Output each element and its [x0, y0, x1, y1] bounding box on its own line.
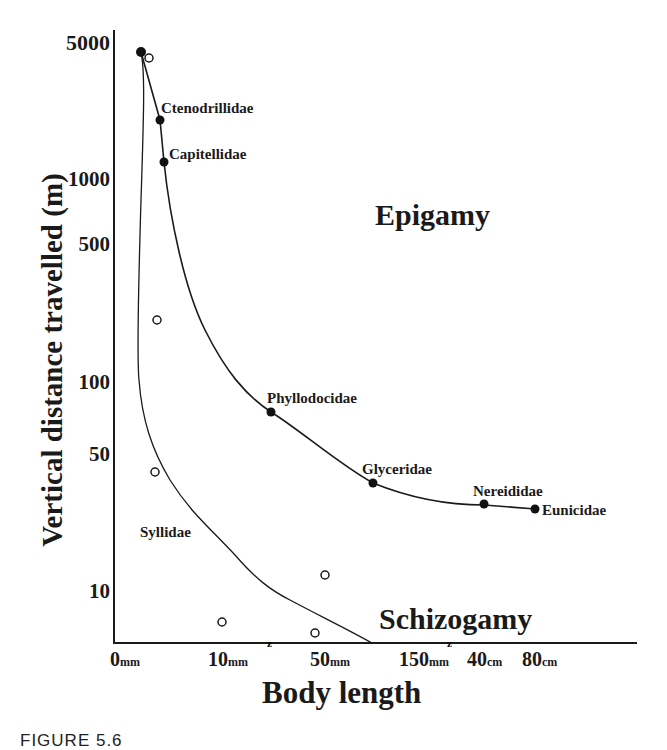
- figure-caption: FIGURE 5.6: [20, 731, 123, 750]
- open-point: [151, 468, 159, 476]
- x-tick-unit: mm: [330, 655, 350, 669]
- schizogamy-points: [145, 54, 329, 637]
- x-tick-unit: mm: [120, 655, 140, 669]
- data-point-nereididae: [480, 500, 489, 509]
- x-tick-150mm: 150mm: [399, 648, 449, 671]
- x-tick-10mm: 10mm: [208, 648, 248, 671]
- x-tick-value: 50: [310, 648, 330, 670]
- open-point: [145, 54, 153, 62]
- x-tick-50mm: 50mm: [310, 648, 350, 671]
- x-tick-value: 0: [110, 648, 120, 670]
- x-tick-value: 150: [399, 648, 429, 670]
- x-axis-title: Body length: [262, 675, 421, 711]
- label-syllidae: Syllidae: [140, 524, 191, 541]
- x-tick-unit: cm: [542, 655, 557, 669]
- y-tick-5000: 5000: [30, 30, 110, 56]
- data-point-eunicidae: [531, 505, 540, 514]
- x-tick-value: 80: [522, 648, 542, 670]
- label-nereididae: Nereididae: [473, 483, 543, 500]
- epigamy-curve: [141, 52, 535, 509]
- open-point: [218, 618, 226, 626]
- axis-break-mark: z: [267, 637, 272, 649]
- x-tick-80cm: 80cm: [522, 648, 557, 671]
- label-ctenodrillidae: Ctenodrillidae: [161, 100, 254, 117]
- syllidae-curve: [138, 52, 372, 643]
- y-axis-title: Vertical distance travelled (m): [36, 173, 69, 546]
- x-tick-unit: mm: [228, 655, 248, 669]
- x-tick-0mm: 0mm: [110, 648, 140, 671]
- data-point-glyceridae: [369, 479, 378, 488]
- label-eunicidae: Eunicidae: [542, 502, 606, 519]
- x-tick-unit: mm: [429, 655, 449, 669]
- data-point-top: [136, 47, 146, 57]
- open-point: [311, 629, 319, 637]
- x-tick-value: 40: [467, 648, 487, 670]
- x-tick-value: 10: [208, 648, 228, 670]
- data-point-phyllodocidae: [267, 408, 276, 417]
- x-tick-40cm: 40cm: [467, 648, 502, 671]
- region-label-schizogamy: Schizogamy: [379, 602, 532, 636]
- x-tick-unit: cm: [487, 655, 502, 669]
- label-phyllodocidae: Phyllodocidae: [267, 390, 357, 407]
- open-point: [153, 316, 161, 324]
- label-glyceridae: Glyceridae: [362, 461, 432, 478]
- data-point-capitellidae: [160, 158, 169, 167]
- label-capitellidae: Capitellidae: [169, 146, 247, 163]
- open-point: [321, 571, 329, 579]
- region-label-epigamy: Epigamy: [375, 198, 490, 232]
- y-tick-10: 10: [30, 579, 110, 604]
